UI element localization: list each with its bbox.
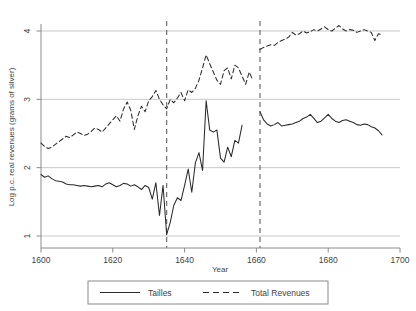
y-tick-label-2: 2 xyxy=(22,165,32,170)
x-tick-label-1620: 1620 xyxy=(103,255,122,265)
x-tick-label-1660: 1660 xyxy=(247,255,266,265)
legend: Tailles Total Revenues xyxy=(88,281,328,304)
y-axis-title: Log p.c. real revenues (grams of silver) xyxy=(7,67,16,206)
x-tick-label-1680: 1680 xyxy=(319,255,338,265)
revenue-line-chart: 160016201640166016801700 1234 Year Log p… xyxy=(0,0,416,311)
x-tick-label-1600: 1600 xyxy=(32,255,51,265)
x-axis-title: Year xyxy=(212,265,229,274)
x-tick-label-1640: 1640 xyxy=(175,255,194,265)
legend-label-tailles: Tailles xyxy=(148,288,172,298)
y-tick-label-4: 4 xyxy=(22,28,32,33)
chart-background xyxy=(0,0,416,311)
x-tick-label-1700: 1700 xyxy=(391,255,410,265)
legend-label-total-revenues: Total Revenues xyxy=(251,288,310,298)
y-tick-label-3: 3 xyxy=(22,97,32,102)
y-tick-label-1: 1 xyxy=(22,233,32,238)
